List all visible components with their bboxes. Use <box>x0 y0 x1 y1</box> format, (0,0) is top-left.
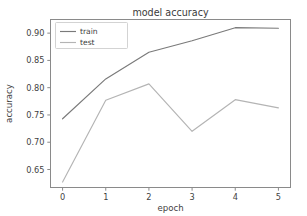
y-tick-label: 0.85 <box>26 55 44 65</box>
x-tick-label: 2 <box>146 192 151 202</box>
figure-background <box>0 0 307 216</box>
x-tick-label: 0 <box>60 192 65 202</box>
model-accuracy-line-chart: model accuracy 0.650.700.750.800.850.90 … <box>0 0 307 216</box>
x-tick-label: 5 <box>276 192 281 202</box>
y-axis-label: accuracy <box>4 84 14 123</box>
legend-label-train: train <box>80 27 98 36</box>
chart-legend: traintest <box>56 23 128 49</box>
x-tick-label: 1 <box>103 192 108 202</box>
chart-figure: model accuracy 0.650.700.750.800.850.90 … <box>0 0 307 216</box>
x-tick-label: 4 <box>233 192 238 202</box>
y-tick-label: 0.75 <box>26 110 44 120</box>
y-tick-label: 0.65 <box>26 165 44 175</box>
y-tick-label: 0.80 <box>26 83 44 93</box>
y-tick-label: 0.90 <box>26 28 44 38</box>
chart-title: model accuracy <box>132 7 209 18</box>
x-axis-label: epoch <box>157 203 183 213</box>
legend-label-test: test <box>80 38 95 47</box>
x-tick-label: 3 <box>189 192 194 202</box>
y-tick-label: 0.70 <box>26 137 44 147</box>
